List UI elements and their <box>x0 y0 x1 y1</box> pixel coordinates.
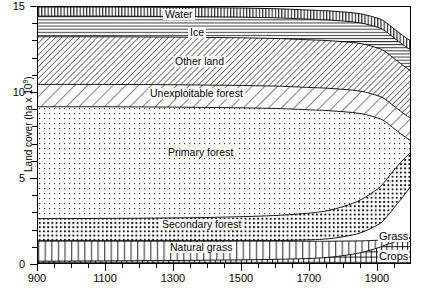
x-tick-major <box>309 264 310 271</box>
x-tick-minor <box>139 264 140 268</box>
y-tick-major <box>30 178 37 179</box>
x-tick-major <box>241 264 242 271</box>
x-tick-minor <box>275 264 276 268</box>
x-tick-minor <box>258 264 259 268</box>
x-tick-minor <box>224 264 225 268</box>
area-label-ice: Ice <box>188 27 206 38</box>
y-axis-label: Land cover (ha x 109) <box>22 34 34 214</box>
area-label-secondary-forest: Secondary forest <box>160 219 243 230</box>
x-tick-major <box>377 264 378 271</box>
x-tick-minor <box>88 264 89 268</box>
area-primary-forest <box>38 107 411 219</box>
x-tick-label-1300: 1300 <box>150 272 196 284</box>
area-label-unexploitable-forest: Unexploitable forest <box>148 88 245 99</box>
x-tick-label-900: 900 <box>14 272 60 284</box>
area-label-other-land: Other land <box>173 56 226 67</box>
x-tick-label-1900: 1900 <box>354 272 400 284</box>
y-tick-label-15: 15 <box>3 1 25 12</box>
x-tick-major <box>37 264 38 271</box>
area-label-natural-grass: Natural grass <box>168 242 234 253</box>
plot-area: Water Ice Other land Unexploitable fores… <box>37 6 411 264</box>
chart-root: Land cover (ha x 109) 15 10 5 0 <box>0 0 421 289</box>
x-tick-minor <box>71 264 72 268</box>
x-tick-major <box>173 264 174 271</box>
x-tick-label-1500: 1500 <box>218 272 264 284</box>
x-tick-minor <box>190 264 191 268</box>
x-tick-minor <box>343 264 344 268</box>
y-tick-major <box>30 6 37 7</box>
x-tick-minor <box>207 264 208 268</box>
y-tick-label-0: 0 <box>3 259 25 270</box>
y-axis-label-exponent: 9 <box>22 80 29 84</box>
x-tick-minor <box>360 264 361 268</box>
y-tick-label-10: 10 <box>3 87 25 98</box>
x-tick-minor <box>292 264 293 268</box>
y-axis-label-close: ) <box>23 76 34 79</box>
x-tick-minor <box>54 264 55 268</box>
y-tick-major <box>30 264 37 265</box>
x-tick-minor <box>326 264 327 268</box>
x-tick-label-1700: 1700 <box>286 272 332 284</box>
x-tick-label-1100: 1100 <box>82 272 128 284</box>
area-label-water: Water <box>163 9 195 20</box>
y-tick-label-5: 5 <box>3 173 25 184</box>
x-tick-minor <box>156 264 157 268</box>
x-tick-minor <box>122 264 123 268</box>
area-label-primary-forest: Primary forest <box>166 147 235 158</box>
x-tick-minor <box>394 264 395 268</box>
area-label-grass: Grass <box>378 230 409 242</box>
x-tick-major <box>105 264 106 271</box>
area-label-crops: Crops <box>378 250 409 262</box>
y-tick-major <box>30 92 37 93</box>
